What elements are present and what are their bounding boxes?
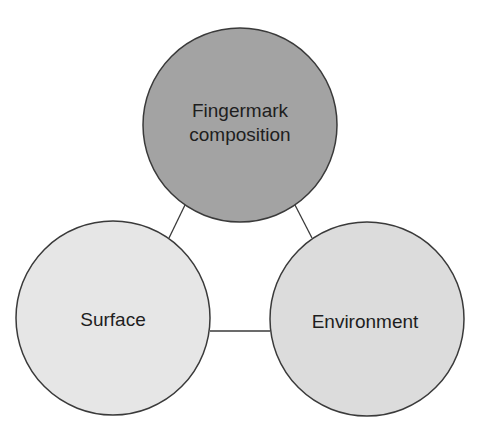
node-label-line-1: Fingermark (192, 100, 289, 121)
node-label-line-2: composition (189, 124, 290, 145)
diagram-canvas: Fingermark composition Surface Environme… (0, 0, 483, 431)
node-label: Environment (312, 311, 419, 332)
edge-fingermark-surface (169, 205, 185, 238)
node-label: Surface (80, 309, 145, 330)
node-environment: Environment (270, 222, 464, 416)
node-surface: Surface (16, 221, 210, 415)
node-fingermark-composition: Fingermark composition (143, 28, 337, 222)
edge-fingermark-environment (295, 205, 312, 238)
